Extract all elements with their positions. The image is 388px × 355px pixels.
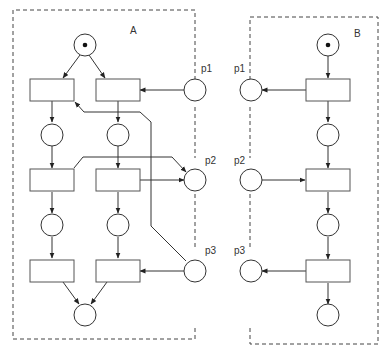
token [326, 43, 331, 48]
component-b-label: B [354, 28, 361, 39]
place-b-m2[interactable] [317, 214, 339, 236]
transition-a-r2[interactable] [96, 169, 140, 191]
transition-a-r3[interactable] [96, 260, 140, 282]
place-a-p2-label: p2 [205, 155, 217, 166]
arc [91, 282, 107, 304]
transition-b-1[interactable] [306, 79, 350, 101]
place-b-m1[interactable] [317, 124, 339, 146]
place-b-p3[interactable] [240, 260, 262, 282]
arc [63, 55, 80, 78]
transition-a-l2[interactable] [30, 169, 74, 191]
transition-a-l1[interactable] [30, 79, 74, 101]
place-a-p3[interactable] [184, 260, 206, 282]
transition-a-l3[interactable] [30, 260, 74, 282]
transition-b-3[interactable] [306, 260, 350, 282]
place-a-p3-label: p3 [205, 245, 217, 256]
place-a-p1-label: p1 [201, 63, 213, 74]
petri-net-diagram: A B p1 p2 p3 p1 p2 [0, 0, 388, 355]
place-b-end[interactable] [317, 304, 339, 326]
transition-b-2[interactable] [306, 169, 350, 191]
place-b-p1[interactable] [240, 79, 262, 101]
place-a-p2[interactable] [184, 169, 206, 191]
arc [63, 282, 79, 304]
place-b-p2[interactable] [240, 169, 262, 191]
place-b-p3-label: p3 [234, 245, 246, 256]
place-a-l2[interactable] [41, 214, 63, 236]
place-b-p1-label: p1 [234, 63, 246, 74]
component-a-label: A [130, 25, 137, 36]
place-b-p2-label: p2 [234, 155, 246, 166]
place-a-r2[interactable] [107, 214, 129, 236]
place-a-l1[interactable] [41, 124, 63, 146]
arc [89, 55, 105, 78]
place-a-p1[interactable] [184, 79, 206, 101]
token [83, 43, 88, 48]
transition-a-r1[interactable] [96, 79, 140, 101]
place-a-end[interactable] [74, 304, 96, 326]
place-a-r1[interactable] [107, 124, 129, 146]
